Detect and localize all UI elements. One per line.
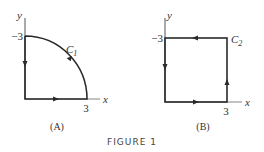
y-axis-label: y xyxy=(166,9,172,21)
arrow-down-icon xyxy=(23,61,28,67)
y-tick-label: −3 xyxy=(151,32,163,44)
curve-c1 xyxy=(25,36,87,99)
panel-caption: (A) xyxy=(50,121,64,133)
curve-c2 xyxy=(165,38,227,102)
arrow-left-icon xyxy=(192,36,198,41)
arrow-down-icon xyxy=(163,64,168,70)
panel-a: y x −3 3 C1 (A) xyxy=(11,9,108,133)
arrow-right-icon xyxy=(193,100,199,105)
y-tick-label: −3 xyxy=(11,30,23,42)
curve-label: C1 xyxy=(66,43,77,58)
curve-label: C2 xyxy=(231,33,242,48)
x-axis-label: x xyxy=(244,96,250,108)
panel-caption: (B) xyxy=(196,121,209,133)
x-tick-label: 3 xyxy=(83,102,89,114)
x-axis-label: x xyxy=(102,93,108,105)
x-tick-label: 3 xyxy=(223,105,229,117)
y-axis-label: y xyxy=(16,9,22,21)
figure-title: FIGURE 1 xyxy=(107,137,157,147)
arrow-up-icon xyxy=(225,79,230,85)
figure-canvas: y x −3 3 C1 (A) y x −3 3 C2 (B) FIGURE 1 xyxy=(0,0,264,152)
panel-b: y x −3 3 C2 (B) xyxy=(151,9,250,133)
arrow-right-icon xyxy=(53,97,59,102)
